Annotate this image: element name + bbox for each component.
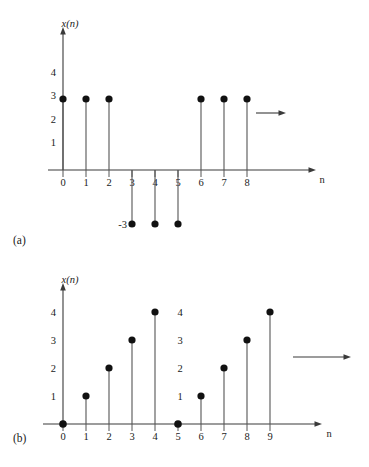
- panel-b-xtick-2: 2: [106, 431, 111, 442]
- panel-a-dot-n4: [151, 220, 158, 227]
- panel-b-xtick-4: 4: [152, 431, 158, 442]
- panel-a-stems: [63, 99, 247, 224]
- panel-a-dot-n5: [174, 220, 181, 227]
- panel-b-inner-label-2: 2: [177, 363, 182, 374]
- panel-a-xtick-8: 8: [244, 177, 249, 188]
- panel-b-xtick-7: 7: [221, 431, 226, 442]
- panel-a-ytick-3: 3: [51, 90, 56, 101]
- panel-b-xtick-8: 8: [244, 431, 249, 442]
- panel-b-dot-n6: [197, 392, 204, 399]
- panel-a-label: (a): [13, 234, 26, 247]
- panel-b-dot-n4: [151, 308, 158, 315]
- panel-a-xtick-2: 2: [106, 177, 111, 188]
- panel-a: x(n) n 1 2 3 4 0 1 2 3 4 5 6 7: [13, 18, 325, 247]
- panel-b-dot-n7: [220, 364, 227, 371]
- panel-a-dot-n7: [220, 95, 227, 102]
- panel-a-x-axis-arrowhead: [309, 167, 317, 173]
- panel-b-dot-n1: [82, 392, 89, 399]
- panel-b-stem-markers: [59, 308, 273, 427]
- panel-b-label: (b): [13, 432, 27, 445]
- panel-b-dot-n0: [59, 420, 67, 428]
- panel-a-x-axis-title: n: [319, 174, 325, 185]
- panel-b-xtick-1: 1: [83, 431, 88, 442]
- panel-a-continuation-arrow-icon: [256, 110, 286, 115]
- panel-a-y-axis-title: x(n): [61, 18, 79, 30]
- panel-b: x(n) n 1 2 3 4 1 2 3 4 0 1: [13, 274, 351, 445]
- panel-b-dot-n3: [128, 336, 135, 343]
- panel-b-dot-n9: [266, 308, 273, 315]
- panel-b-inner-label-3: 3: [177, 335, 182, 346]
- panel-b-xtick-3: 3: [129, 431, 134, 442]
- panel-b-ytick-3: 3: [51, 335, 56, 346]
- panel-b-x-axis-arrowhead: [315, 421, 323, 427]
- panel-a-xtick-6: 6: [198, 177, 203, 188]
- panel-b-dot-n8: [243, 336, 250, 343]
- panel-b-dot-n2: [105, 364, 112, 371]
- panel-b-xtick-0: 0: [60, 431, 65, 442]
- panel-a-xtick-0: 0: [60, 177, 65, 188]
- panel-b-ytick-4: 4: [51, 307, 57, 318]
- panel-b-x-axis-title: n: [326, 428, 332, 439]
- panel-b-ytick-2: 2: [51, 363, 56, 374]
- panel-a-dot-n3: [128, 220, 135, 227]
- panel-b-ytick-1: 1: [51, 391, 56, 402]
- panel-a-dot-n0: [59, 95, 66, 102]
- panel-a-xtick-1: 1: [83, 177, 88, 188]
- figure-container: x(n) n 1 2 3 4 0 1 2 3 4 5 6 7: [0, 0, 369, 467]
- panel-b-dot-n5: [174, 420, 182, 428]
- panel-b-xtick-5: 5: [175, 431, 180, 442]
- panel-b-y-axis-title: x(n): [61, 274, 79, 286]
- panel-a-dot-n2: [105, 95, 112, 102]
- panel-a-dot-n8: [243, 95, 250, 102]
- stem-plot-figure: x(n) n 1 2 3 4 0 1 2 3 4 5 6 7: [0, 0, 369, 467]
- panel-b-inner-label-1: 1: [177, 391, 182, 402]
- panel-b-inner-label-4: 4: [177, 307, 183, 318]
- panel-a-ytick-1: 1: [51, 137, 56, 148]
- panel-a-ytick-4: 4: [51, 67, 57, 78]
- panel-a-negative-three-label: -3: [118, 219, 127, 230]
- panel-a-xtick-7: 7: [221, 177, 226, 188]
- panel-a-dot-n6: [197, 95, 204, 102]
- panel-b-continuation-arrow-icon: [293, 354, 351, 360]
- panel-b-xtick-9: 9: [267, 431, 272, 442]
- panel-b-xtick-6: 6: [198, 431, 203, 442]
- panel-a-dot-n1: [82, 95, 89, 102]
- panel-a-ytick-2: 2: [51, 114, 56, 125]
